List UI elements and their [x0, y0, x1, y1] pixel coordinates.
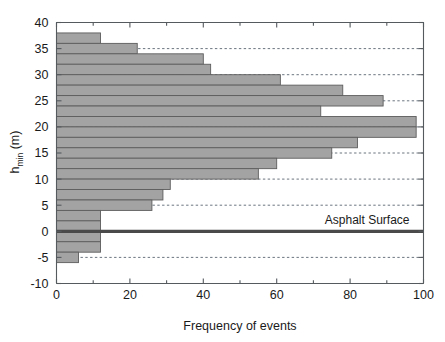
x-tick-label-100: 100: [413, 288, 434, 302]
x-tick-label-40: 40: [196, 288, 210, 302]
bar-bin-25: [57, 96, 384, 106]
bar-bin-15: [57, 148, 332, 158]
bar-bin-5: [57, 200, 152, 210]
bar-bin-19: [57, 127, 417, 137]
bar-bin-7: [57, 190, 163, 200]
y-axis-title-base: h: [8, 166, 22, 173]
histogram-chart: 020406080100 -10-50510152025303540 Aspha…: [0, 0, 445, 342]
y-tick-label-35: 35: [35, 42, 49, 56]
x-tick-label-0: 0: [53, 288, 60, 302]
x-axis-title: Frequency of events: [183, 319, 296, 333]
chart-figure: 020406080100 -10-50510152025303540 Aspha…: [0, 0, 445, 342]
y-tick-label-40: 40: [35, 16, 49, 30]
x-tick-label-60: 60: [270, 288, 284, 302]
y-tick-label-30: 30: [35, 68, 49, 82]
y-tick-label-25: 25: [35, 94, 49, 108]
bar-bin-23: [57, 106, 321, 116]
bar-bin-31: [57, 64, 211, 74]
bar-bin-13: [57, 158, 277, 168]
bar-bin-27: [57, 85, 343, 95]
bar-bin-17: [57, 137, 358, 147]
y-tick-label-20: 20: [35, 120, 49, 134]
x-tick-label-80: 80: [343, 288, 357, 302]
asphalt-surface-label: Asphalt Surface: [325, 213, 410, 227]
y-tick-label--5: -5: [37, 251, 48, 265]
x-tick-label-20: 20: [123, 288, 137, 302]
chart-annotations: Asphalt Surface: [325, 213, 410, 227]
bar-bin-9: [57, 179, 171, 189]
bar-bin-29: [57, 75, 281, 85]
bar-bin-11: [57, 169, 259, 179]
y-tick-label-15: 15: [35, 146, 49, 160]
y-axis-title-unit: (m): [8, 131, 22, 153]
bar-bin-37: [57, 33, 101, 43]
y-tick-label-10: 10: [35, 173, 49, 187]
bar-bin-35: [57, 43, 138, 53]
bar-bin-33: [57, 54, 204, 64]
y-tick-label-5: 5: [42, 199, 49, 213]
bar-bin-21: [57, 116, 417, 126]
bar-bin-3: [57, 210, 101, 220]
y-axis-title-subscript: min: [15, 153, 25, 167]
y-tick-label--10: -10: [30, 277, 48, 291]
bar-bin--3: [57, 242, 101, 252]
y-tick-label-0: 0: [42, 225, 49, 239]
